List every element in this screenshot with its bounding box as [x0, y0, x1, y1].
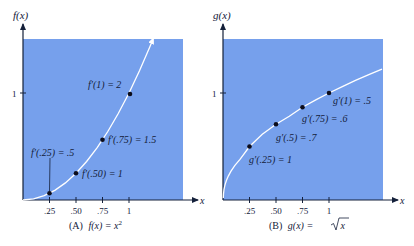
point-a-2: [100, 138, 105, 143]
x-tick-label-a-0: .25: [44, 206, 56, 216]
leader-line-a-0: [50, 158, 51, 191]
point-label-b-2: g′(.75) = .6: [302, 113, 348, 125]
x-axis-label-b: x: [399, 195, 405, 206]
x-tick-label-b-3: 1: [327, 206, 332, 216]
point-b-0: [247, 144, 252, 149]
panel-a: f(x) x 1 .25 .50 .75 1 f′(.25) = .5 f′(.…: [12, 9, 205, 232]
y-tick-label-a: 1: [12, 89, 17, 99]
point-b-2: [300, 105, 305, 110]
y-tick-label-b: 1: [212, 89, 217, 99]
x-axis-label-a: x: [199, 195, 205, 206]
point-a-3: [128, 92, 133, 97]
point-a-0: [47, 191, 52, 196]
point-label-a-2: f′(.75) = 1.5: [108, 134, 156, 146]
caption-b: (B) g(x) =: [269, 220, 313, 232]
x-tick-label-a-1: .50: [70, 206, 82, 216]
caption-b-radicand: x: [340, 220, 346, 231]
x-tick-label-b-0: .25: [244, 206, 256, 216]
panel-b: g(x) x 1 .25 .50 .75 1 g′(.25) = 1 g′(.5…: [212, 9, 405, 232]
x-tick-label-b-1: .50: [270, 206, 282, 216]
figure: f(x) x 1 .25 .50 .75 1 f′(.25) = .5 f′(.…: [0, 0, 414, 246]
y-axis-label-a: f(x): [13, 9, 29, 22]
point-label-a-3: f′(1) = 2: [88, 79, 121, 91]
point-label-b-1: g′(.5) = .7: [276, 132, 318, 144]
point-label-a-1: f′(.50) = 1: [82, 168, 123, 180]
point-label-a-0: f′(.25) = .5: [31, 147, 74, 159]
point-b-3: [327, 91, 332, 96]
point-label-b-0: g′(.25) = 1: [249, 154, 292, 166]
point-label-b-3: g′(1) = .5: [333, 95, 371, 107]
x-tick-label-b-2: .75: [297, 206, 309, 216]
caption-a: (A) f(x) = x2: [69, 219, 122, 232]
x-tick-label-a-2: .75: [97, 206, 109, 216]
point-a-1: [74, 171, 79, 176]
y-axis-label-b: g(x): [213, 9, 231, 22]
point-b-1: [274, 122, 279, 127]
x-tick-label-a-3: 1: [127, 206, 132, 216]
